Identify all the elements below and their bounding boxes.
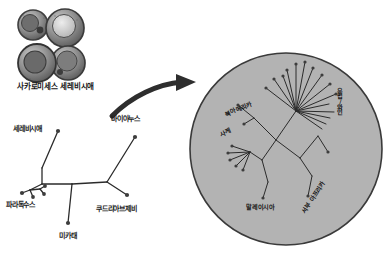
population-tree-circle [0, 0, 386, 254]
circle-background [190, 53, 382, 245]
phylogeny-figure: 사카로미세스 세레비시애 [0, 0, 386, 254]
clade-label-europe-wine: 유럽/와인 [337, 88, 343, 114]
clade-label-malaysia: 말레이시아 [246, 204, 275, 210]
